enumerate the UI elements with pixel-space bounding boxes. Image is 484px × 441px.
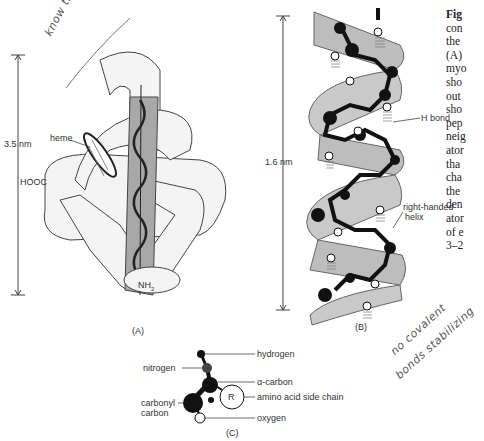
side-chain-label: amino acid side chain: [257, 392, 344, 402]
caption-line: sho: [446, 76, 484, 90]
panel-label-a: (A): [132, 326, 144, 336]
oxygen-label: oxygen: [257, 413, 286, 423]
alpha-carbon-label: α-carbon: [257, 377, 293, 387]
hydrogen-label: hydrogen: [257, 349, 295, 359]
r-group-label: R: [228, 392, 235, 402]
heme-label: heme: [50, 133, 73, 143]
dimension-arrow-a: [11, 55, 25, 295]
caption-line: of e: [446, 226, 484, 240]
caption-line: out: [446, 90, 484, 104]
caption-line: 3–2: [446, 239, 484, 253]
carbonyl-label-line2: carbon: [141, 408, 169, 418]
n-terminus-text: NH: [138, 280, 151, 290]
figure-caption: Fig con the (A) myo sho out sho pep neig…: [446, 0, 484, 253]
c-terminus-label: HOOC: [20, 177, 47, 187]
caption-line: neig: [446, 130, 484, 144]
amino-acid-molecule: [183, 350, 244, 423]
caption-line: myo: [446, 62, 484, 76]
n-terminus-subscript: 2: [151, 286, 154, 292]
nitrogen-label: nitrogen: [143, 363, 176, 373]
caption-line: cha: [446, 171, 484, 185]
caption-line: con: [446, 22, 484, 36]
carbonyl-label-line1: carbonyl: [141, 398, 175, 408]
caption-line: den: [446, 198, 484, 212]
caption-line: tha: [446, 158, 484, 172]
n-terminus-label: NH2: [138, 280, 154, 294]
panel-label-b: (B): [355, 322, 367, 332]
caption-line: the: [446, 35, 484, 49]
caption-line: ator: [446, 212, 484, 226]
helix-cylinder-a: [125, 85, 158, 295]
dimension-label-a: 3.5 nm: [4, 139, 32, 149]
caption-line: sho: [446, 103, 484, 117]
caption-line: the: [446, 185, 484, 199]
panel-label-c: (C): [226, 428, 239, 438]
helix-label-line2: helix: [405, 212, 424, 222]
helix-leader-line: [393, 212, 403, 228]
h-bond-leader-line: [393, 118, 420, 122]
caption-line: Fig: [446, 8, 484, 22]
caption-line: (A): [446, 49, 484, 63]
caption-line: ator: [446, 144, 484, 158]
caption-line: pep: [446, 117, 484, 131]
dimension-label-b: 1.6 nm: [265, 157, 293, 167]
